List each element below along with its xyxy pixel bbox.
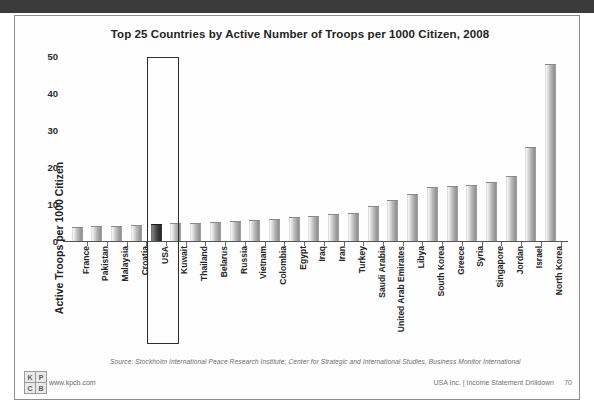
x-label-north-korea: North Korea [554, 246, 564, 295]
logo-cell-b: B [36, 383, 46, 393]
x-label-france: France [81, 246, 91, 274]
x-label-turkey: Turkey [357, 246, 367, 273]
page-number: 70 [564, 379, 572, 386]
y-tick-label: 10 [36, 199, 58, 210]
footer-deck-label: USA Inc. | Income Statement Drilldown [434, 379, 554, 386]
x-label-singapore: Singapore [495, 246, 505, 288]
x-label-colombia: Colombia [278, 246, 288, 285]
x-label-vietnam: Vietnam [258, 246, 268, 279]
kpcb-url-link[interactable]: www.kpcb.com [49, 379, 96, 386]
x-label-jordan: Jordan [515, 246, 525, 274]
x-label-thailand: Thailand [199, 246, 209, 281]
kpcb-logo: K P C B [24, 371, 47, 394]
logo-cell-k: K [25, 372, 35, 382]
y-tick-label: 30 [36, 125, 58, 136]
slide-canvas: Top 25 Countries by Active Number of Tro… [0, 0, 594, 404]
source-note: Source: Stockholm International Peace Re… [110, 358, 570, 365]
x-label-iran: Iran [337, 246, 347, 262]
x-label-belarus: Belarus [219, 246, 229, 277]
y-tick-label: 50 [36, 51, 58, 62]
x-label-united-arab-emirates: United Arab Emirates [396, 246, 406, 332]
x-label-syria: Syria [475, 246, 485, 267]
x-label-israel: Israel [534, 246, 544, 268]
y-tick-label: 0 [36, 236, 58, 247]
x-label-greece: Greece [456, 246, 466, 275]
usa-highlight-callout [147, 57, 179, 344]
y-axis-ticks: 01020304050 [28, 52, 58, 245]
x-axis-labels: FrancePakistanMalaysiaCroatiaUSAKuwaitTh… [63, 0, 568, 404]
x-label-south-korea: South Korea [436, 246, 446, 297]
x-label-libya: Libya [416, 246, 426, 268]
y-tick-label: 40 [36, 88, 58, 99]
x-label-russia: Russia [239, 246, 249, 274]
x-label-malaysia: Malaysia [120, 246, 130, 281]
logo-cell-c: C [25, 383, 35, 393]
x-label-kuwait: Kuwait [179, 246, 189, 274]
y-tick-label: 20 [36, 162, 58, 173]
x-label-saudi-arabia: Saudi Arabia [377, 246, 387, 298]
x-label-pakistan: Pakistan [100, 246, 110, 281]
x-label-egypt: Egypt [298, 246, 308, 270]
logo-cell-p: P [36, 372, 46, 382]
x-label-iraq: Iraq [317, 246, 327, 262]
